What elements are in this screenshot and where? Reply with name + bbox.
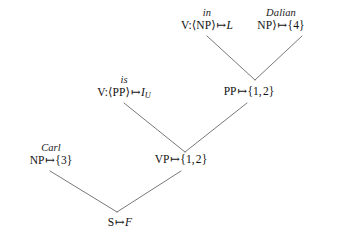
label-vp: VP↦{1, 2} <box>147 154 215 166</box>
label-np-dalian: NP⟩↦{4} <box>250 20 312 32</box>
label-pp: PP↦{1, 2} <box>216 86 282 98</box>
label-v-pp: V:⟨PP⟩↦IU <box>88 87 160 100</box>
gloss-in: in <box>172 8 242 19</box>
gloss-carl: Carl <box>17 143 85 154</box>
edge-v-pp-to-vp <box>124 103 185 152</box>
edge-np-dalian-to-pp <box>255 36 302 80</box>
node-vp: VP↦{1, 2} <box>147 154 215 166</box>
subscript-u: U <box>145 90 151 99</box>
node-np-dalian: Dalian NP⟩↦{4} <box>250 8 312 31</box>
edge-v-np-to-pp <box>207 36 255 80</box>
gloss-dalian: Dalian <box>250 8 312 19</box>
node-s: S↦F <box>100 217 140 229</box>
label-v-np: V:⟨NP⟩↦L <box>172 20 242 32</box>
edge-np-carl-to-s <box>50 171 117 212</box>
node-v-pp: is V:⟨PP⟩↦IU <box>88 75 160 100</box>
edge-vp-to-s <box>117 171 181 212</box>
node-v-np: in V:⟨NP⟩↦L <box>172 8 242 31</box>
node-pp: PP↦{1, 2} <box>216 86 282 98</box>
node-np-carl: Carl NP↦{3} <box>17 143 85 166</box>
edge-pp-to-vp <box>185 103 247 152</box>
parse-tree-diagram: in V:⟨NP⟩↦L Dalian NP⟩↦{4} is V:⟨PP⟩↦IU … <box>0 0 340 243</box>
label-np-carl: NP↦{3} <box>17 155 85 167</box>
tree-edges <box>0 0 340 243</box>
label-s: S↦F <box>100 217 140 229</box>
gloss-is: is <box>88 75 160 86</box>
